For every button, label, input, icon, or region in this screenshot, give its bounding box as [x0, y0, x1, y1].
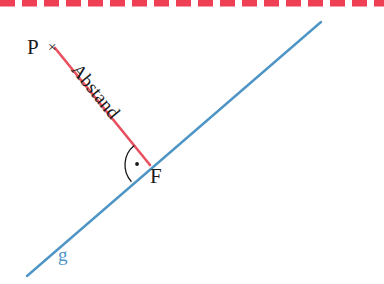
right-angle-arc [125, 146, 134, 182]
geometry-figure: P × Abstand F g [0, 0, 384, 284]
line-label-g: g [58, 245, 68, 264]
point-marker-p-icon: × [48, 40, 56, 55]
point-label-f: F [150, 166, 162, 187]
geometry-layer [0, 0, 384, 284]
right-angle-dot [135, 162, 139, 166]
line-g [27, 22, 321, 276]
point-label-p: P [27, 37, 39, 58]
